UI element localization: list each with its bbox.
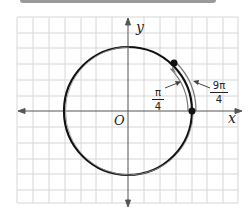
point-start xyxy=(189,108,196,115)
arc-9pi-over-4 xyxy=(176,63,196,112)
label-pi-over-4: π 4 xyxy=(152,87,164,112)
label-9pi-over-4: 9π 4 xyxy=(210,80,228,105)
x-axis-label: x xyxy=(228,110,236,126)
origin-label: O xyxy=(114,113,125,128)
unit-circle-diagram xyxy=(0,0,249,220)
y-axis-label: y xyxy=(136,19,144,35)
point-terminal xyxy=(171,60,178,67)
